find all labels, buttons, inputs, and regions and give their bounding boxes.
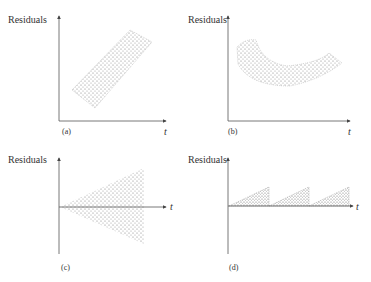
- panel-c-ylabel: Residuals: [8, 154, 47, 165]
- panel-c-xlabel: t: [170, 201, 173, 212]
- residual-plots-figure: Residuals t (a) Residuals t (b) Residual…: [0, 0, 371, 282]
- panel-c-tag: (c): [61, 263, 70, 272]
- panel-a-xlabel: t: [164, 126, 167, 137]
- panel-b-xlabel: t: [348, 126, 351, 137]
- panel-d-sawtooth-1: [229, 187, 269, 206]
- panel-b-residual-band: [237, 40, 342, 86]
- panel-b: Residuals t (b): [188, 14, 351, 137]
- panel-b-ylabel: Residuals: [188, 14, 227, 25]
- panel-d: Residuals t (d): [188, 154, 359, 272]
- panel-d-ylabel: Residuals: [188, 154, 227, 165]
- panel-b-tag: (b): [228, 127, 238, 136]
- panel-a-residual-band: [72, 30, 152, 108]
- panel-d-sawtooth-2: [269, 187, 309, 206]
- panel-a-ylabel: Residuals: [8, 14, 47, 25]
- panel-d-xlabel: t: [356, 201, 359, 212]
- panel-a: Residuals t (a): [8, 14, 167, 137]
- panel-c-residual-funnel: [60, 168, 144, 244]
- panel-d-sawtooth-3: [309, 187, 349, 206]
- panel-d-tag: (d): [229, 263, 239, 272]
- panel-c: Residuals t (c): [8, 154, 173, 272]
- panel-a-tag: (a): [62, 127, 71, 136]
